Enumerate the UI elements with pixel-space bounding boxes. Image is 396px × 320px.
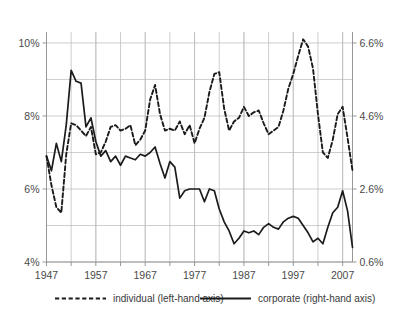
left-axis-tick-label: 6% bbox=[24, 183, 39, 195]
tickmarks-group bbox=[43, 43, 357, 266]
x-axis-tick-label: 1997 bbox=[282, 269, 306, 281]
left-axis-tick-label: 8% bbox=[24, 110, 39, 122]
series-group bbox=[47, 39, 353, 247]
right-axis-tick-labels: 0.6%2.6%4.6%6.6% bbox=[360, 37, 384, 268]
right-axis-tick-label: 6.6% bbox=[360, 37, 384, 49]
right-axis-tick-label: 2.6% bbox=[360, 183, 384, 195]
chart-legend: individual (left-hand axis)corporate (ri… bbox=[55, 293, 375, 304]
gridlines-group bbox=[47, 32, 353, 262]
x-axis-tick-label: 2007 bbox=[331, 269, 355, 281]
left-axis-tick-label: 10% bbox=[18, 37, 39, 49]
chart-canvas: 4%6%8%10% 0.6%2.6%4.6%6.6% 1947195719671… bbox=[0, 0, 396, 320]
axes-group bbox=[47, 32, 353, 262]
right-axis-tick-label: 0.6% bbox=[360, 256, 384, 268]
left-axis-tick-label: 4% bbox=[24, 256, 39, 268]
series-line-corporate bbox=[47, 70, 353, 247]
x-axis-tick-label: 1967 bbox=[134, 269, 158, 281]
legend-label-corporate: corporate (right-hand axis) bbox=[258, 293, 375, 304]
x-axis-tick-label: 1947 bbox=[35, 269, 59, 281]
left-axis-tick-labels: 4%6%8%10% bbox=[18, 37, 39, 268]
line-chart-figure: 4%6%8%10% 0.6%2.6%4.6%6.6% 1947195719671… bbox=[0, 0, 396, 320]
x-axis-tick-labels: 1947195719671977198719972007 bbox=[35, 269, 355, 281]
x-axis-tick-label: 1977 bbox=[183, 269, 207, 281]
x-axis-tick-label: 1987 bbox=[232, 269, 256, 281]
right-axis-tick-label: 4.6% bbox=[360, 110, 384, 122]
x-axis-tick-label: 1957 bbox=[84, 269, 108, 281]
